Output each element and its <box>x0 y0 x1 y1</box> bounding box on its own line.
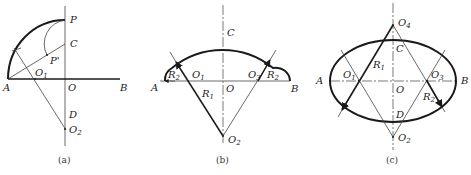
label-a: A <box>2 82 10 93</box>
point-o2 <box>222 135 224 137</box>
label-o2: O2 <box>228 134 241 147</box>
point-o2 <box>64 128 66 130</box>
label-r2-right: R2 <box>266 69 280 82</box>
caption-b: (b) <box>216 155 229 165</box>
radius-r1-arrow <box>342 25 393 110</box>
label-o3: O3 <box>248 69 261 82</box>
label-d: D <box>68 109 77 120</box>
point-pprime <box>46 54 48 56</box>
label-o2: O2 <box>69 124 82 137</box>
label-d: D <box>395 109 404 120</box>
arc-p-pprime <box>44 20 65 55</box>
label-o2: O2 <box>398 132 411 145</box>
label-c: C <box>396 43 404 54</box>
label-b: B <box>290 83 298 94</box>
point-o4 <box>392 24 394 26</box>
caption-a: (a) <box>58 155 70 165</box>
label-c: C <box>70 38 78 49</box>
extension-left <box>170 52 176 62</box>
label-r2-left: R2 <box>167 69 181 82</box>
panel-c: O4 C R1 A O1 O O3 B R2 D O2 (c) <box>315 3 468 165</box>
label-o: O <box>68 82 76 93</box>
label-o1: O1 <box>192 69 205 82</box>
label-a: A <box>150 82 158 93</box>
label-o1: O1 <box>35 67 48 80</box>
label-b: B <box>460 75 468 86</box>
label-r1: R1 <box>201 88 214 101</box>
label-b: B <box>119 82 127 93</box>
label-a: A <box>315 75 323 86</box>
extension-right <box>270 50 276 60</box>
point-o1 <box>358 80 360 82</box>
label-o4: O4 <box>398 17 411 30</box>
line-o2-left <box>341 50 393 137</box>
panel-b: C A R2 O1 O O3 R2 B R1 O2 (b) <box>150 5 298 165</box>
label-p: P <box>69 14 77 25</box>
label-c: C <box>227 27 235 38</box>
point-o1 <box>34 78 36 80</box>
label-p-prime: P' <box>49 55 59 66</box>
point-o2 <box>392 136 394 138</box>
ellipse-construction-figure: P C P' O1 A O B D O2 (a) C A R2 O1 O O3 … <box>0 0 471 175</box>
label-r1: R1 <box>372 59 385 72</box>
label-o: O <box>226 83 234 94</box>
panel-a: P C P' O1 A O B D O2 (a) <box>2 6 127 165</box>
label-o: O <box>396 84 404 95</box>
point-o3 <box>426 80 428 82</box>
caption-c: (c) <box>386 155 398 165</box>
extension-left <box>338 110 342 117</box>
label-o3: O3 <box>431 69 444 82</box>
